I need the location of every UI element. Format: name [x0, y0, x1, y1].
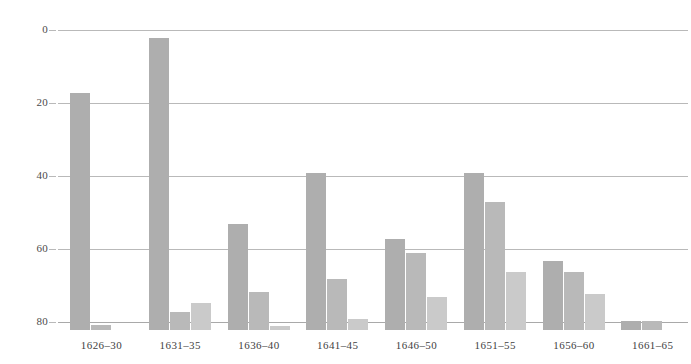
y-tick-mark-0 — [49, 322, 56, 323]
bar-group — [543, 28, 606, 330]
bar — [91, 325, 111, 330]
x-axis-label: 1626–30 — [56, 340, 147, 351]
bar — [70, 93, 90, 330]
bar — [191, 303, 211, 330]
bar — [228, 224, 248, 330]
x-axis-label: 1656–60 — [529, 340, 620, 351]
bar-group — [306, 28, 369, 330]
bar-group — [70, 28, 133, 330]
y-tick-mark-40 — [49, 176, 56, 177]
y-tick-label-0: 80 — [14, 316, 48, 327]
bar — [585, 294, 605, 331]
x-axis-label: 1646–50 — [371, 340, 462, 351]
x-axis-label: 1651–55 — [450, 340, 541, 351]
x-axis-label: 1661–65 — [607, 340, 691, 351]
plot-area — [58, 20, 688, 330]
y-tick-label-80: 0 — [14, 24, 48, 35]
bar-group — [464, 28, 527, 330]
bar — [642, 321, 662, 330]
bar-group — [385, 28, 448, 330]
bar-group — [149, 28, 212, 330]
bar — [506, 272, 526, 330]
bar-group — [228, 28, 291, 330]
x-axis-label: 1636–40 — [214, 340, 305, 351]
bar — [543, 261, 563, 330]
bar — [170, 312, 190, 330]
bar — [327, 279, 347, 330]
bar — [621, 321, 641, 330]
bar — [270, 326, 290, 330]
bar — [406, 253, 426, 330]
bar-chart: 806040200 1626–301631–351636–401641–4516… — [0, 0, 691, 364]
bar — [564, 272, 584, 330]
bar — [385, 239, 405, 330]
bar — [348, 319, 368, 330]
bar — [249, 292, 269, 330]
y-tick-mark-20 — [49, 249, 56, 250]
x-axis-label: 1631–35 — [135, 340, 226, 351]
x-axis-label: 1641–45 — [292, 340, 383, 351]
y-axis: 806040200 — [0, 0, 48, 364]
y-tick-mark-80 — [49, 30, 56, 31]
bar — [149, 38, 169, 330]
bar — [427, 297, 447, 330]
bar — [306, 173, 326, 330]
y-tick-label-20: 60 — [14, 243, 48, 254]
bar — [464, 173, 484, 330]
y-tick-label-60: 20 — [14, 97, 48, 108]
bar — [485, 202, 505, 330]
bar-group — [621, 28, 684, 330]
y-tick-label-40: 40 — [14, 170, 48, 181]
y-tick-mark-60 — [49, 103, 56, 104]
